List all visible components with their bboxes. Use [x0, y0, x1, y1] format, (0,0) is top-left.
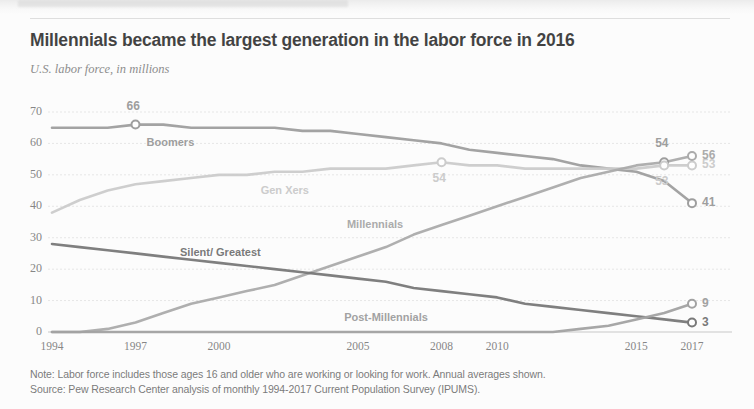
- x-axis-tick-label: 2010: [471, 340, 523, 352]
- series-inline-label: Boomers: [147, 136, 195, 148]
- series-end-marker: [688, 161, 696, 169]
- series-point-value-label: 66: [126, 99, 139, 113]
- series-end-value-label: 3: [702, 315, 709, 329]
- y-axis-tick-label: 20: [16, 261, 42, 276]
- series-point-marker: [660, 161, 668, 169]
- series-point-value-label: 54: [655, 136, 668, 150]
- y-axis-tick-label: 40: [16, 198, 42, 213]
- series-point-marker: [438, 158, 446, 166]
- y-axis-tick-label: 50: [16, 167, 42, 182]
- x-axis-tick-label: 2017: [666, 340, 718, 352]
- series-end-value-label: 56: [702, 148, 715, 162]
- series-end-marker: [688, 152, 696, 160]
- y-axis-tick-label: 30: [16, 230, 42, 245]
- x-axis-tick-label: 2000: [193, 340, 245, 352]
- series-point-marker: [131, 121, 139, 129]
- series-inline-label: Gen Xers: [261, 184, 309, 196]
- series-end-marker: [688, 319, 696, 327]
- y-axis-tick-label: 10: [16, 293, 42, 308]
- chart-note: Note: Labor force includes those ages 16…: [30, 368, 545, 380]
- series-inline-label: Silent/ Greatest: [180, 246, 261, 258]
- chart-source: Source: Pew Research Center analysis of …: [30, 383, 480, 395]
- series-inline-label: Millennials: [347, 218, 403, 230]
- y-axis-tick-label: 70: [16, 104, 42, 119]
- series-end-value-label: 41: [702, 195, 715, 209]
- series-inline-label: Post-Millennials: [344, 311, 428, 323]
- x-axis-tick-label: 2005: [332, 340, 384, 352]
- x-axis-tick-label: 1994: [26, 340, 78, 352]
- y-axis-tick-label: 0: [16, 324, 42, 339]
- series-line: [52, 162, 692, 212]
- series-point-value-label: 54: [433, 171, 446, 185]
- series-end-marker: [688, 199, 696, 207]
- series-end-marker: [688, 300, 696, 308]
- series-point-value-label: 53: [655, 174, 668, 188]
- x-axis-tick-label: 1997: [109, 340, 161, 352]
- series-end-value-label: 9: [702, 296, 709, 310]
- y-axis-tick-label: 60: [16, 135, 42, 150]
- x-axis-tick-label: 2008: [416, 340, 468, 352]
- x-axis-tick-label: 2015: [610, 340, 662, 352]
- line-chart: 0102030405060701994199720002005200820102…: [0, 0, 754, 409]
